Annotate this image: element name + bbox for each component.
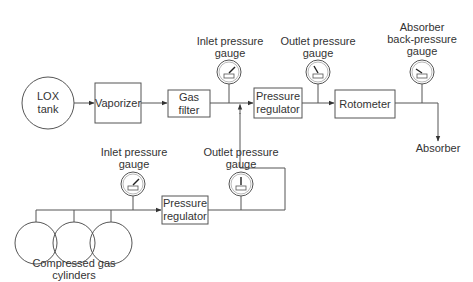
absorber-gauge-line1: Absorber — [382, 21, 462, 33]
bottom-regulator-line1: Pressure — [163, 197, 207, 210]
pipe-rotometer-absorber — [395, 103, 438, 141]
absorber-gauge-line2: back-pressure — [382, 33, 462, 45]
absorber-gauge-icon — [410, 60, 434, 84]
top-regulator-line2: regulator — [256, 103, 299, 116]
absorber-gauge-line3: gauge — [382, 45, 462, 57]
vaporizer-label: Vaporizer — [95, 83, 141, 123]
bottom-inlet-gauge-line2: gauge — [97, 158, 171, 170]
top-regulator-line1: Pressure — [256, 90, 300, 103]
absorber-text: Absorber — [416, 142, 461, 154]
bottom-regulator-label: Pressure regulator — [162, 196, 208, 224]
gas-filter-line2: filter — [179, 104, 200, 117]
top-inlet-gauge-line2: gauge — [194, 47, 266, 59]
lox-tank-label: LOX tank — [22, 90, 74, 116]
bottom-inlet-gauge-line1: Inlet pressure — [97, 146, 171, 158]
top-regulator-label: Pressure regulator — [254, 88, 302, 118]
bottom-outlet-gauge-icon — [229, 172, 253, 196]
top-outlet-gauge-icon — [306, 60, 330, 84]
absorber-gauge-label: Absorber back-pressure gauge — [382, 21, 462, 57]
absorber-label: Absorber — [408, 142, 468, 154]
top-outlet-gauge-line2: gauge — [278, 47, 358, 59]
lox-tank-line1: LOX — [37, 90, 59, 103]
top-outlet-gauge-line1: Outlet pressure — [278, 35, 358, 47]
bottom-outlet-gauge-line1: Outlet pressure — [201, 146, 281, 158]
vaporizer-text: Vaporizer — [95, 97, 141, 110]
cylinders-line1: Compressed gas — [32, 257, 116, 269]
bottom-regulator-line2: regulator — [163, 210, 206, 223]
cylinders-label: Compressed gas cylinders — [32, 257, 116, 281]
top-inlet-gauge-icon — [217, 60, 241, 84]
top-inlet-gauge-line1: Inlet pressure — [194, 35, 266, 47]
gas-filter-label: Gas filter — [168, 90, 210, 117]
bottom-outlet-gauge-label: Outlet pressure gauge — [201, 146, 281, 170]
gas-filter-line1: Gas — [179, 91, 199, 104]
top-outlet-gauge-label: Outlet pressure gauge — [278, 35, 358, 59]
bottom-inlet-gauge-label: Inlet pressure gauge — [97, 146, 171, 170]
rotometer-text: Rotometer — [339, 98, 390, 111]
rotometer-label: Rotometer — [335, 90, 395, 118]
bottom-inlet-gauge-icon — [121, 172, 145, 196]
cylinders-line2: cylinders — [32, 269, 116, 281]
top-inlet-gauge-label: Inlet pressure gauge — [194, 35, 266, 59]
bottom-outlet-gauge-line2: gauge — [201, 158, 281, 170]
lox-tank-line2: tank — [38, 103, 59, 116]
